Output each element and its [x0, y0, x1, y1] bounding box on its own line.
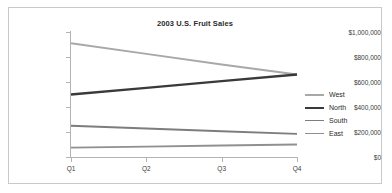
legend-label: West [329, 91, 345, 98]
series-line-south [71, 126, 297, 134]
series-line-west [71, 43, 297, 74]
legend-label: East [329, 130, 343, 137]
legend-item-south[interactable]: South [305, 114, 377, 127]
legend-item-north[interactable]: North [305, 101, 377, 114]
legend-swatch-east [305, 133, 324, 134]
legend-label: South [329, 117, 347, 124]
series-line-north [71, 75, 297, 95]
chart-frame: 2003 U.S. Fruit Sales $1,000,000$800,000… [8, 7, 382, 184]
legend-item-east[interactable]: East [305, 127, 377, 140]
series-line-east [71, 145, 297, 148]
legend-label: North [329, 104, 346, 111]
legend-swatch-south [305, 120, 324, 121]
chart-legend: WestNorthSouthEast [305, 88, 377, 140]
legend-swatch-north [305, 107, 324, 109]
legend-item-west[interactable]: West [305, 88, 377, 101]
legend-swatch-west [305, 94, 324, 96]
